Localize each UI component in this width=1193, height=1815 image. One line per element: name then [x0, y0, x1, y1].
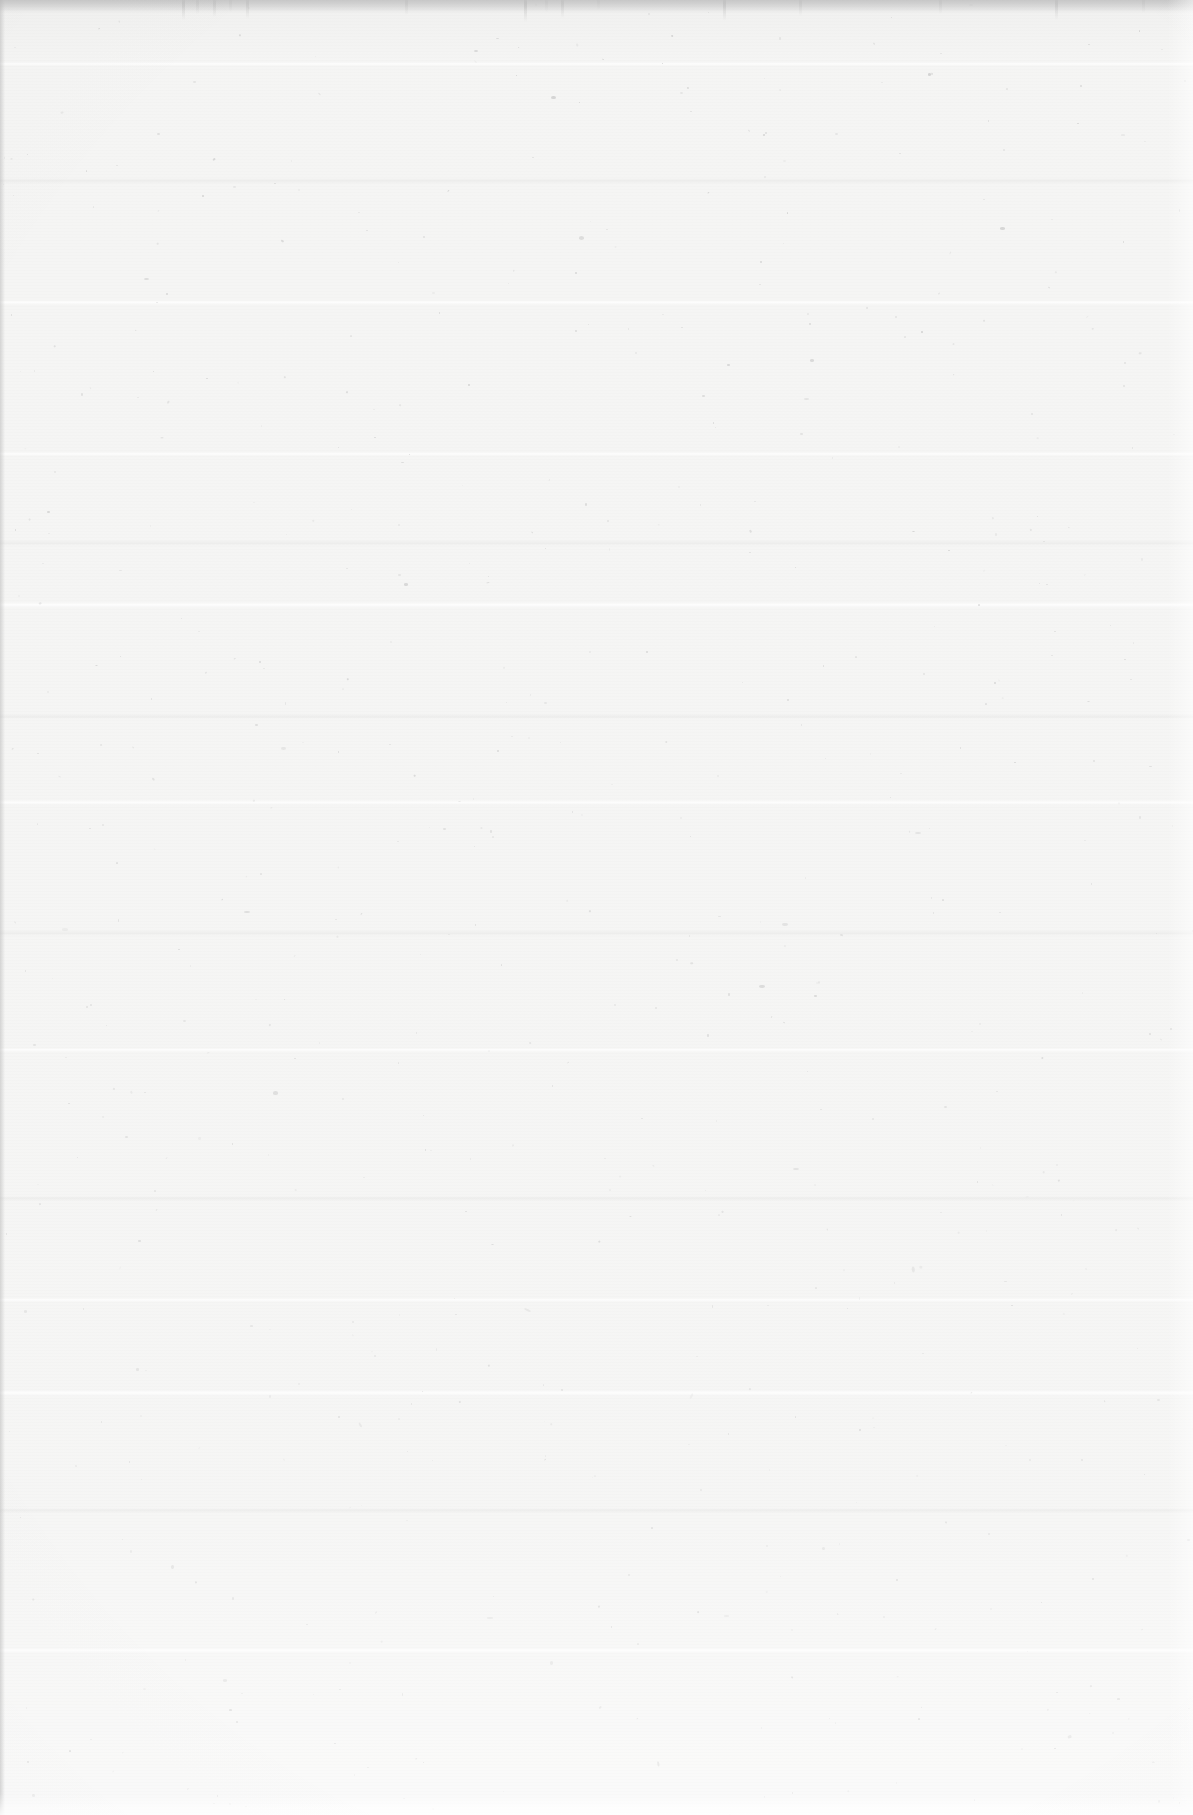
page-content	[0, 0, 1193, 1815]
scanned-page	[0, 0, 1193, 1815]
